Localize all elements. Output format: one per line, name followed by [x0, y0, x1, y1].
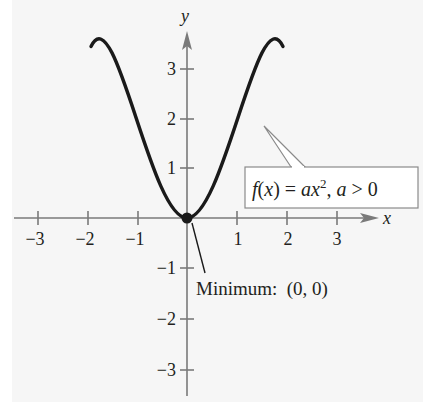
- y-tick-label: 1: [167, 158, 176, 178]
- y-axis-label: y: [179, 6, 189, 26]
- x-tick-label: 1: [234, 229, 243, 249]
- function-label: f(x) = ax2, a > 0: [252, 176, 378, 201]
- y-tick-label: −2: [157, 309, 176, 329]
- minimum-point: [182, 213, 193, 224]
- x-tick-label: −1: [125, 229, 144, 249]
- minimum-label: Minimum: (0, 0): [196, 278, 328, 300]
- parabola-figure: x y −3 −2 −1 1 2 3 3 2 1 −1 −2 −3 Minimu…: [0, 0, 423, 402]
- x-axis-label: x: [382, 208, 391, 228]
- y-tick-label: −1: [157, 258, 176, 278]
- x-tick-label: 3: [333, 229, 342, 249]
- x-tick-label: 2: [284, 229, 293, 249]
- y-tick-label: 2: [167, 109, 176, 129]
- x-tick-label: −2: [75, 229, 94, 249]
- y-tick-label: 3: [167, 59, 176, 79]
- x-tick-label: −3: [25, 229, 44, 249]
- y-tick-label: −3: [157, 360, 176, 380]
